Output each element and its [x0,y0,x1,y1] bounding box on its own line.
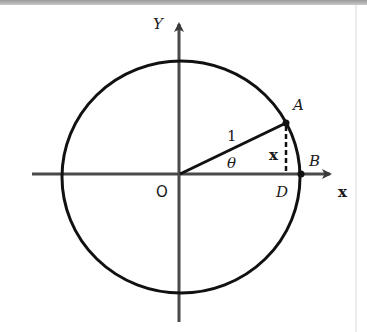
point-d-label: D [275,183,288,201]
angle-theta-label: θ [227,154,236,172]
unit-circle-diagram: Y x O A B D 1 θ x [0,0,367,332]
point-a-label: A [291,96,304,114]
point-b-dot [298,171,305,178]
point-a-dot [283,120,290,127]
point-b-label: B [308,152,320,170]
origin-label: O [156,183,168,201]
segment-ad-label: x [269,146,279,164]
y-axis-label: Y [153,15,165,33]
unit-circle [62,61,300,293]
radius-label: 1 [227,127,237,145]
x-axis-label: x [338,183,348,201]
